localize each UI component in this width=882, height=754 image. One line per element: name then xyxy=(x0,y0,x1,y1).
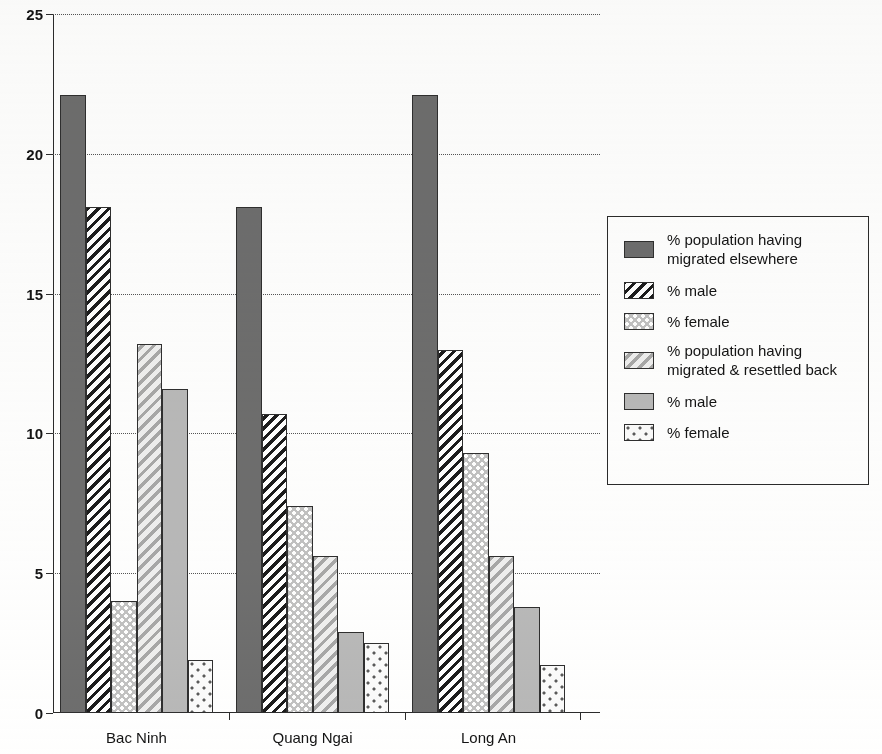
legend-item-0[interactable]: % population having migrated elsewhere xyxy=(624,230,860,268)
y-tick-label-5: 5 xyxy=(35,565,43,582)
bar xyxy=(489,556,515,713)
legend-item-1[interactable]: % male xyxy=(624,279,860,301)
legend-item-label: % population having migrated elsewhere xyxy=(667,230,802,268)
bar-chart: 0510152025 Bac NinhQuang NgaiLong An % p… xyxy=(0,0,882,754)
bar xyxy=(540,665,566,713)
plot-area xyxy=(53,14,600,713)
y-tick-label-10: 10 xyxy=(26,425,43,442)
legend-item-5[interactable]: % female xyxy=(624,421,860,443)
bar xyxy=(364,643,390,713)
y-tick-0 xyxy=(46,713,53,714)
bar xyxy=(463,453,489,713)
bar xyxy=(412,95,438,713)
legend-swatch-icon xyxy=(624,313,654,330)
legend-swatch-icon xyxy=(624,352,654,369)
bar xyxy=(86,207,112,713)
legend-swatch-icon xyxy=(624,282,654,299)
category-label-long-an: Long An xyxy=(461,729,516,746)
bar xyxy=(438,350,464,713)
y-tick-label-25: 25 xyxy=(26,6,43,23)
chart-legend: % population having migrated elsewhere% … xyxy=(607,216,869,485)
y-tick-15 xyxy=(46,294,53,295)
bar xyxy=(111,601,137,713)
bar xyxy=(60,95,86,713)
legend-item-label: % female xyxy=(667,312,730,331)
legend-item-label: % population having migrated & resettled… xyxy=(667,341,837,379)
y-tick-25 xyxy=(46,14,53,15)
legend-item-2[interactable]: % female xyxy=(624,310,860,332)
bar xyxy=(338,632,364,713)
bar xyxy=(287,506,313,713)
y-tick-label-15: 15 xyxy=(26,285,43,302)
bar xyxy=(313,556,339,713)
y-tick-10 xyxy=(46,433,53,434)
legend-swatch-icon xyxy=(624,241,654,258)
y-tick-5 xyxy=(46,573,53,574)
y-tick-label-0: 0 xyxy=(35,705,43,722)
bar xyxy=(188,660,214,713)
y-tick-20 xyxy=(46,154,53,155)
x-tick-1 xyxy=(405,712,406,720)
bar-group-bac-ninh xyxy=(60,14,213,713)
legend-item-label: % female xyxy=(667,423,730,442)
bar-group-quang-ngai xyxy=(236,14,389,713)
bar xyxy=(236,207,262,713)
x-tick-0 xyxy=(229,712,230,720)
legend-swatch-icon xyxy=(624,424,654,441)
legend-item-label: % male xyxy=(667,281,717,300)
bar xyxy=(514,607,540,713)
bar-group-long-an xyxy=(412,14,565,713)
category-label-bac-ninh: Bac Ninh xyxy=(106,729,167,746)
category-label-quang-ngai: Quang Ngai xyxy=(272,729,352,746)
legend-item-4[interactable]: % male xyxy=(624,390,860,412)
legend-items: % population having migrated elsewhere% … xyxy=(624,230,860,476)
bar xyxy=(262,414,288,713)
legend-item-label: % male xyxy=(667,392,717,411)
y-tick-label-20: 20 xyxy=(26,145,43,162)
x-tick-2 xyxy=(580,712,581,720)
legend-item-3[interactable]: % population having migrated & resettled… xyxy=(624,341,860,379)
bar xyxy=(162,389,188,713)
legend-swatch-icon xyxy=(624,393,654,410)
bar xyxy=(137,344,163,713)
